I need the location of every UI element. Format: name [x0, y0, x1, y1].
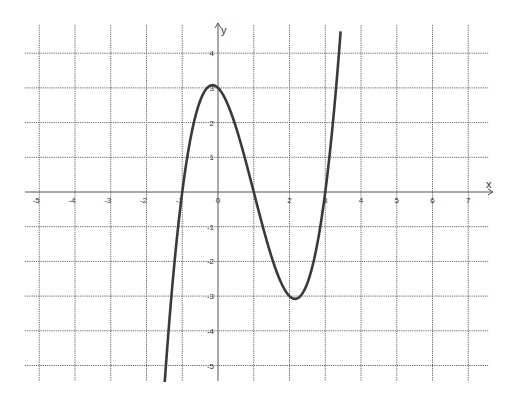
- x-tick-label: 5: [395, 196, 400, 205]
- x-tick-label: 6: [430, 196, 435, 205]
- x-tick-label: 2: [287, 196, 292, 205]
- x-tick-label: 4: [359, 196, 364, 205]
- y-tick-label: 2: [210, 119, 215, 128]
- function-plot: x y -5-4-3-2-10234567 4321-1-2-3-4-5: [0, 0, 518, 403]
- y-tick-label: 4: [210, 49, 215, 58]
- y-tick-labels: 4321-1-2-3-4-5: [207, 49, 215, 370]
- y-tick-label: -4: [207, 327, 215, 336]
- x-tick-label: -3: [104, 196, 112, 205]
- y-tick-label: -1: [207, 223, 215, 232]
- y-axis-label: y: [221, 24, 227, 36]
- function-curve: [164, 31, 340, 387]
- y-tick-label: -5: [207, 362, 215, 371]
- y-tick-label: -3: [207, 292, 215, 301]
- x-tick-labels: -5-4-3-2-10234567: [33, 196, 471, 205]
- x-tick-label: -4: [68, 196, 76, 205]
- axes: x y: [25, 23, 493, 381]
- x-tick-label: 7: [466, 196, 471, 205]
- y-tick-label: -2: [207, 257, 215, 266]
- y-tick-label: 1: [210, 153, 215, 162]
- x-tick-label: -2: [140, 196, 148, 205]
- x-tick-label: -5: [33, 196, 41, 205]
- x-tick-label: 0: [216, 196, 221, 205]
- x-axis-label: x: [486, 178, 492, 190]
